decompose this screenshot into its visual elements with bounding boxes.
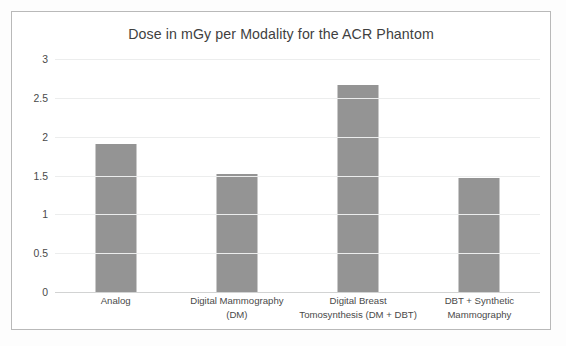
x-axis-category-label: Analog [55, 294, 176, 308]
gridline: 0.5 [55, 253, 540, 254]
bar[interactable] [216, 174, 257, 292]
x-axis-category-label-line: DBT + Synthetic [419, 294, 540, 308]
bar[interactable] [95, 144, 136, 292]
bar[interactable] [459, 178, 500, 292]
y-axis-tick-label: 0.5 [34, 248, 48, 259]
gridline: 1 [55, 214, 540, 215]
gridline: 1.5 [55, 176, 540, 177]
x-axis-category-label-line: Analog [55, 294, 176, 308]
x-axis-category-label: Digital Mammography(DM) [176, 294, 297, 321]
chart-title: Dose in mGy per Modality for the ACR Pha… [12, 26, 550, 42]
y-axis-tick-label: 1 [42, 209, 48, 220]
gridline: 2 [55, 137, 540, 138]
x-axis-category-label: DBT + SyntheticMammography [419, 294, 540, 321]
plot-area: 32.521.510.50 [55, 59, 540, 292]
gridline: 2.5 [55, 98, 540, 99]
x-axis-category-labels: AnalogDigital Mammography(DM)Digital Bre… [55, 294, 540, 334]
gridline: 3 [55, 59, 540, 60]
y-axis-tick-label: 0 [42, 287, 48, 298]
y-axis-tick-label: 2.5 [34, 92, 48, 103]
y-axis-tick-label: 3 [42, 54, 48, 65]
x-axis-category-label-line: Digital Mammography [176, 294, 297, 308]
document-page: Dose in mGy per Modality for the ACR Pha… [0, 0, 566, 346]
y-axis-tick-label: 2 [42, 131, 48, 142]
x-axis-category-label-line: Tomosynthesis (DM + DBT) [298, 308, 419, 322]
x-axis-category-label-line: Digital Breast [298, 294, 419, 308]
axis-baseline: 0 [55, 292, 540, 293]
x-axis-category-label-line: Mammography [419, 308, 540, 322]
y-axis-tick-label: 1.5 [34, 170, 48, 181]
bar[interactable] [338, 85, 379, 292]
chart-frame: Dose in mGy per Modality for the ACR Pha… [11, 11, 551, 330]
x-axis-category-label-line: (DM) [176, 308, 297, 322]
x-axis-category-label: Digital BreastTomosynthesis (DM + DBT) [298, 294, 419, 321]
